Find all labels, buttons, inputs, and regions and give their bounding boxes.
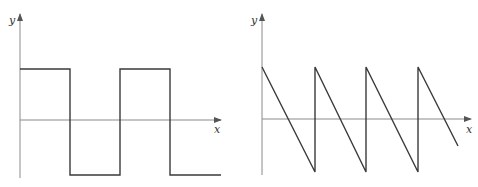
figure-canvas: y x y x	[0, 0, 478, 187]
y-axis-label: y	[250, 14, 258, 27]
square-wave-line	[20, 69, 221, 175]
x-axis-label: x	[466, 123, 473, 136]
square-wave-plot: y x	[8, 14, 221, 178]
y-axis-label: y	[8, 14, 16, 27]
x-axis-label: x	[214, 123, 221, 136]
sawtooth-wave-plot: y x	[250, 14, 473, 175]
